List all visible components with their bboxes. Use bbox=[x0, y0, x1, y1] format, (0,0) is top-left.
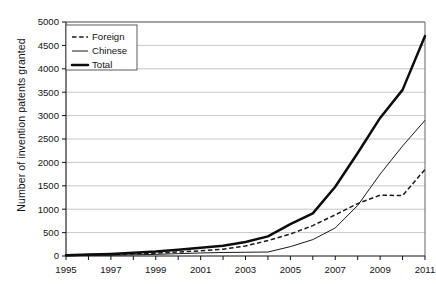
x-tick-label: 1995 bbox=[55, 264, 76, 275]
y-tick-label: 3000 bbox=[38, 110, 59, 121]
y-tick-label: 4000 bbox=[38, 63, 59, 74]
series-line-chinese bbox=[66, 120, 425, 255]
x-tick-label: 2009 bbox=[369, 264, 390, 275]
y-tick-label: 3500 bbox=[38, 87, 59, 98]
legend-label-foreign: Foreign bbox=[92, 31, 125, 42]
x-tick-labels: 199519971999200120032005200720092011 bbox=[55, 264, 435, 275]
x-tick-label: 1997 bbox=[100, 264, 121, 275]
y-tick-labels: 0500100015002000250030003500400045005000 bbox=[38, 16, 59, 261]
legend-label-total: Total bbox=[92, 59, 112, 70]
y-tick-label: 2500 bbox=[38, 133, 59, 144]
patents-line-chart: Number of invention patents granted 0500… bbox=[0, 0, 436, 284]
y-tick-label: 0 bbox=[54, 250, 59, 261]
y-tick-label: 1500 bbox=[38, 180, 59, 191]
x-tick-marks bbox=[66, 256, 425, 260]
x-tick-label: 2001 bbox=[190, 264, 211, 275]
x-tick-label: 2003 bbox=[235, 264, 256, 275]
legend-label-chinese: Chinese bbox=[92, 45, 127, 56]
x-tick-label: 2005 bbox=[280, 264, 301, 275]
y-tick-label: 4500 bbox=[38, 40, 59, 51]
chart-canvas: 0500100015002000250030003500400045005000… bbox=[0, 0, 436, 284]
x-tick-label: 1999 bbox=[145, 264, 166, 275]
x-tick-label: 2011 bbox=[415, 264, 436, 275]
x-tick-label: 2007 bbox=[325, 264, 346, 275]
y-tick-label: 500 bbox=[43, 227, 59, 238]
y-tick-label: 2000 bbox=[38, 157, 59, 168]
y-tick-label: 5000 bbox=[38, 16, 59, 27]
chart-legend: ForeignChineseTotal bbox=[66, 25, 137, 70]
y-tick-label: 1000 bbox=[38, 204, 59, 215]
y-tick-marks bbox=[62, 22, 66, 256]
